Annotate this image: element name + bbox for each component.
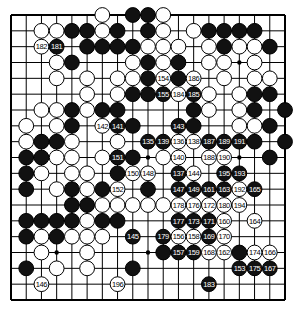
move-number-label: 188 bbox=[203, 153, 215, 162]
stone-disc bbox=[64, 134, 79, 149]
move-number-label: 182 bbox=[36, 42, 48, 51]
stone-disc bbox=[171, 55, 186, 70]
stone-disc bbox=[247, 103, 262, 118]
black-stone bbox=[247, 134, 262, 149]
black-stone: 177 bbox=[171, 213, 186, 228]
black-stone bbox=[141, 8, 156, 23]
black-stone bbox=[141, 55, 156, 70]
stone-disc bbox=[19, 118, 34, 133]
stone-disc bbox=[19, 261, 34, 276]
black-stone: 149 bbox=[186, 182, 201, 197]
stone-disc bbox=[262, 87, 277, 102]
white-stone bbox=[156, 198, 171, 213]
move-number-label: 172 bbox=[203, 201, 215, 210]
stone-disc bbox=[125, 39, 140, 54]
stone-disc bbox=[19, 150, 34, 165]
stone-disc bbox=[217, 71, 232, 86]
stone-disc bbox=[217, 23, 232, 38]
white-stone bbox=[80, 229, 95, 244]
black-stone bbox=[125, 118, 140, 133]
black-stone bbox=[95, 213, 110, 228]
stone-disc bbox=[141, 71, 156, 86]
stone-disc bbox=[64, 182, 79, 197]
black-stone: 163 bbox=[217, 182, 232, 197]
stone-disc bbox=[110, 103, 125, 118]
move-number-label: 164 bbox=[249, 217, 261, 226]
move-number-label: 158 bbox=[188, 232, 200, 241]
white-stone bbox=[34, 245, 49, 260]
star-point bbox=[237, 155, 241, 159]
black-stone bbox=[232, 245, 247, 260]
move-number-label: 186 bbox=[188, 74, 200, 83]
white-stone bbox=[247, 71, 262, 86]
white-stone bbox=[19, 134, 34, 149]
move-number-label: 173 bbox=[188, 217, 200, 226]
white-stone: 176 bbox=[186, 198, 201, 213]
move-number-label: 149 bbox=[188, 185, 200, 194]
stone-disc bbox=[201, 87, 216, 102]
stone-disc bbox=[262, 39, 277, 54]
move-number-label: 175 bbox=[249, 264, 261, 273]
black-stone bbox=[232, 23, 247, 38]
stone-disc bbox=[49, 134, 64, 149]
stone-disc bbox=[95, 23, 110, 38]
black-stone: 185 bbox=[186, 87, 201, 102]
white-stone: 146 bbox=[34, 277, 49, 292]
white-stone: 166 bbox=[262, 245, 277, 260]
white-stone bbox=[232, 118, 247, 133]
stone-disc bbox=[95, 198, 110, 213]
stone-disc bbox=[186, 23, 201, 38]
black-stone bbox=[95, 103, 110, 118]
move-number-label: 154 bbox=[158, 74, 170, 83]
stone-disc bbox=[19, 166, 34, 181]
white-stone bbox=[232, 87, 247, 102]
stone-disc bbox=[201, 103, 216, 118]
black-stone bbox=[171, 71, 186, 86]
black-stone bbox=[34, 134, 49, 149]
stone-disc bbox=[186, 118, 201, 133]
stone-disc bbox=[217, 55, 232, 70]
black-stone bbox=[19, 182, 34, 197]
stone-disc bbox=[49, 261, 64, 276]
white-stone: 196 bbox=[110, 277, 125, 292]
move-number-label: 169 bbox=[203, 232, 215, 241]
move-number-label: 147 bbox=[173, 185, 185, 194]
white-stone bbox=[247, 55, 262, 70]
stone-disc bbox=[80, 166, 95, 181]
stone-disc bbox=[141, 39, 156, 54]
stone-disc bbox=[247, 39, 262, 54]
white-stone: 186 bbox=[186, 71, 201, 86]
stone-disc bbox=[95, 182, 110, 197]
white-stone bbox=[201, 39, 216, 54]
black-stone bbox=[64, 182, 79, 197]
black-stone: 157 bbox=[171, 245, 186, 260]
stone-disc bbox=[217, 39, 232, 54]
stone-disc bbox=[19, 134, 34, 149]
move-number-label: 166 bbox=[264, 248, 276, 257]
stone-disc bbox=[262, 150, 277, 165]
white-stone: 162 bbox=[217, 245, 232, 260]
stone-disc bbox=[49, 55, 64, 70]
black-stone bbox=[278, 134, 293, 149]
white-stone: 158 bbox=[186, 229, 201, 244]
black-stone: 161 bbox=[201, 182, 216, 197]
white-stone: 164 bbox=[247, 213, 262, 228]
go-board: 1821811541861551841851421411431351391361… bbox=[0, 0, 299, 310]
white-stone: 160 bbox=[217, 213, 232, 228]
black-stone: 145 bbox=[125, 229, 140, 244]
black-stone bbox=[80, 198, 95, 213]
white-stone bbox=[201, 55, 216, 70]
move-number-label: 163 bbox=[218, 185, 230, 194]
stone-disc bbox=[95, 103, 110, 118]
black-stone: 173 bbox=[186, 213, 201, 228]
move-number-label: 184 bbox=[173, 90, 185, 99]
white-stone bbox=[217, 55, 232, 70]
stone-disc bbox=[110, 71, 125, 86]
black-stone: 137 bbox=[171, 166, 186, 181]
black-stone bbox=[156, 245, 171, 260]
white-stone bbox=[64, 150, 79, 165]
white-stone bbox=[156, 8, 171, 23]
white-stone bbox=[247, 39, 262, 54]
stone-disc bbox=[80, 229, 95, 244]
stone-disc bbox=[201, 55, 216, 70]
